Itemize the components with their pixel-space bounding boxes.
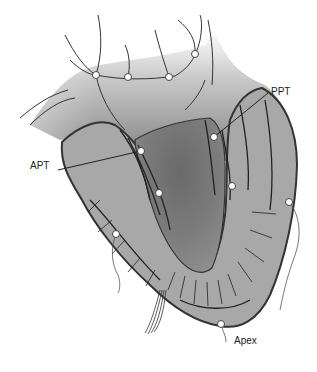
marker [166,74,173,81]
marker [218,321,225,328]
heart-diagram: APT PPT Apex [0,0,317,372]
marker [113,231,120,238]
label-apex: Apex [234,335,257,346]
marker [211,134,218,141]
label-apt: APT [30,160,49,171]
marker [229,183,236,190]
marker [138,148,145,155]
heart-illustration [0,0,317,372]
marker [286,199,293,206]
marker [156,190,163,197]
marker [93,72,100,79]
label-ppt: PPT [271,86,290,97]
marker [125,74,132,81]
marker [192,51,199,58]
